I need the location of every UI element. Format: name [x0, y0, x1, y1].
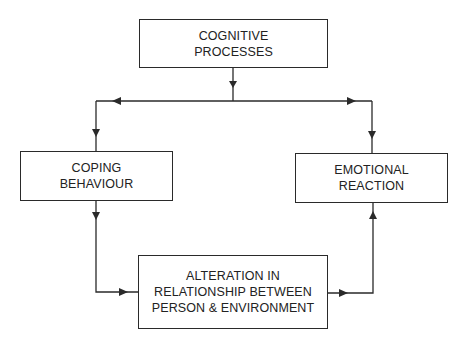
node-cognitive-processes: COGNITIVE PROCESSES [139, 19, 328, 68]
arrowhead-right-icon [119, 288, 128, 296]
node-label-line: COPING [72, 160, 122, 176]
node-label-line: PROCESSES [194, 44, 273, 60]
arrowhead-down-icon [92, 129, 100, 137]
arrowhead-down-icon [92, 212, 100, 220]
node-label-line: REACTION [339, 178, 404, 194]
node-label-line: EMOTIONAL [334, 162, 409, 178]
node-label-line: RELATIONSHIP BETWEEN [154, 284, 312, 300]
flow-diagram: COGNITIVE PROCESSES COPING BEHAVIOUR EMO… [0, 0, 468, 345]
edge-coping-to-alteration [96, 200, 138, 292]
arrowhead-down-icon [368, 131, 376, 139]
edge-alteration-to-emotional [327, 202, 373, 293]
node-coping-behaviour: COPING BEHAVIOUR [20, 151, 173, 201]
arrowhead-right-icon [339, 289, 348, 297]
arrowhead-up-icon [369, 211, 377, 219]
node-alteration-relationship: ALTERATION IN RELATIONSHIP BETWEEN PERSO… [138, 255, 328, 329]
arrowhead-right-icon [347, 97, 356, 105]
node-emotional-reaction: EMOTIONAL REACTION [295, 153, 448, 203]
node-label-line: PERSON & ENVIRONMENT [152, 300, 314, 316]
arrowhead-down-icon [229, 81, 237, 88]
node-label-line: ALTERATION IN [186, 268, 280, 284]
node-label-line: COGNITIVE [199, 28, 269, 44]
node-label-line: BEHAVIOUR [60, 176, 134, 192]
arrowhead-left-icon [112, 97, 121, 105]
